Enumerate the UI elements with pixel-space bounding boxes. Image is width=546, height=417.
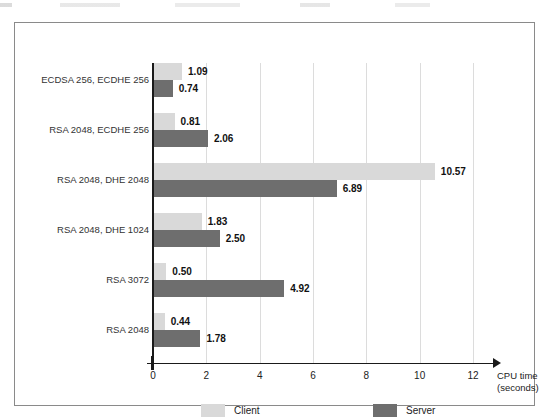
- gridline: [366, 63, 367, 363]
- bar-client: [153, 63, 182, 80]
- category-label: RSA 3072: [31, 274, 149, 285]
- x-axis-title: CPU time (seconds): [497, 370, 546, 394]
- scan-artifact: [0, 3, 546, 7]
- x-tick-label: 10: [414, 370, 425, 381]
- category-label: RSA 2048, ECDHE 256: [31, 124, 149, 135]
- category-label: RSA 2048: [31, 324, 149, 335]
- bar-value-label: 0.81: [181, 113, 200, 130]
- chart-figure: 1.090.740.812.0610.576.891.832.500.504.9…: [0, 0, 546, 417]
- x-tick-label: 4: [257, 370, 263, 381]
- gridline: [260, 63, 261, 363]
- bar-server: [153, 230, 220, 247]
- bar-client: [153, 113, 175, 130]
- chart-frame: 1.090.740.812.0610.576.891.832.500.504.9…: [14, 22, 535, 406]
- gridline: [420, 63, 421, 363]
- bar-client: [153, 313, 165, 330]
- bar-value-label: 0.44: [171, 313, 190, 330]
- bar-value-label: 10.57: [441, 163, 466, 180]
- bar-client: [153, 213, 202, 230]
- gridline: [473, 63, 474, 363]
- category-labels: ECDSA 256, ECDHE 256RSA 2048, ECDHE 256R…: [25, 63, 149, 363]
- x-tick-label: 12: [467, 370, 478, 381]
- bar-value-label: 2.06: [214, 130, 233, 147]
- bar-value-label: 1.78: [206, 330, 225, 347]
- y-axis-line: [152, 63, 154, 364]
- legend-item[interactable]: Client: [201, 401, 260, 417]
- bar-value-label: 1.83: [208, 213, 227, 230]
- bar-server: [153, 130, 208, 147]
- bar-value-label: 6.89: [343, 180, 362, 197]
- x-tick-label: 2: [204, 370, 210, 381]
- x-axis-arrow-icon: [493, 358, 501, 368]
- category-label: RSA 2048, DHE 1024: [31, 224, 149, 235]
- bar-server: [153, 330, 200, 347]
- bar-client: [153, 263, 166, 280]
- chart-legend: ClientServer: [29, 401, 546, 417]
- legend-swatch-icon: [201, 404, 225, 417]
- bar-client: [153, 163, 435, 180]
- plot-area: 1.090.740.812.0610.576.891.832.500.504.9…: [153, 63, 473, 363]
- x-axis-title-main: CPU time: [497, 370, 546, 382]
- x-axis-origin-tick: [151, 356, 154, 370]
- x-tick-label: 0: [150, 370, 156, 381]
- category-label: ECDSA 256, ECDHE 256: [31, 74, 149, 85]
- bar-value-label: 0.74: [179, 80, 198, 97]
- bar-value-label: 1.09: [188, 63, 207, 80]
- x-tick-label: 8: [364, 370, 370, 381]
- legend-item[interactable]: Server: [373, 401, 435, 417]
- x-tick-label: 6: [310, 370, 316, 381]
- bar-server: [153, 280, 284, 297]
- legend-label: Server: [406, 405, 435, 416]
- bar-value-label: 4.92: [290, 280, 309, 297]
- category-label: RSA 2048, DHE 2048: [31, 174, 149, 185]
- x-axis-title-unit: (seconds): [497, 382, 546, 394]
- x-axis-line: [147, 363, 495, 364]
- bar-value-label: 2.50: [226, 230, 245, 247]
- bar-server: [153, 180, 337, 197]
- bar-server: [153, 80, 173, 97]
- legend-swatch-icon: [373, 404, 397, 417]
- bar-value-label: 0.50: [172, 263, 191, 280]
- gridline: [313, 63, 314, 363]
- legend-label: Client: [234, 405, 260, 416]
